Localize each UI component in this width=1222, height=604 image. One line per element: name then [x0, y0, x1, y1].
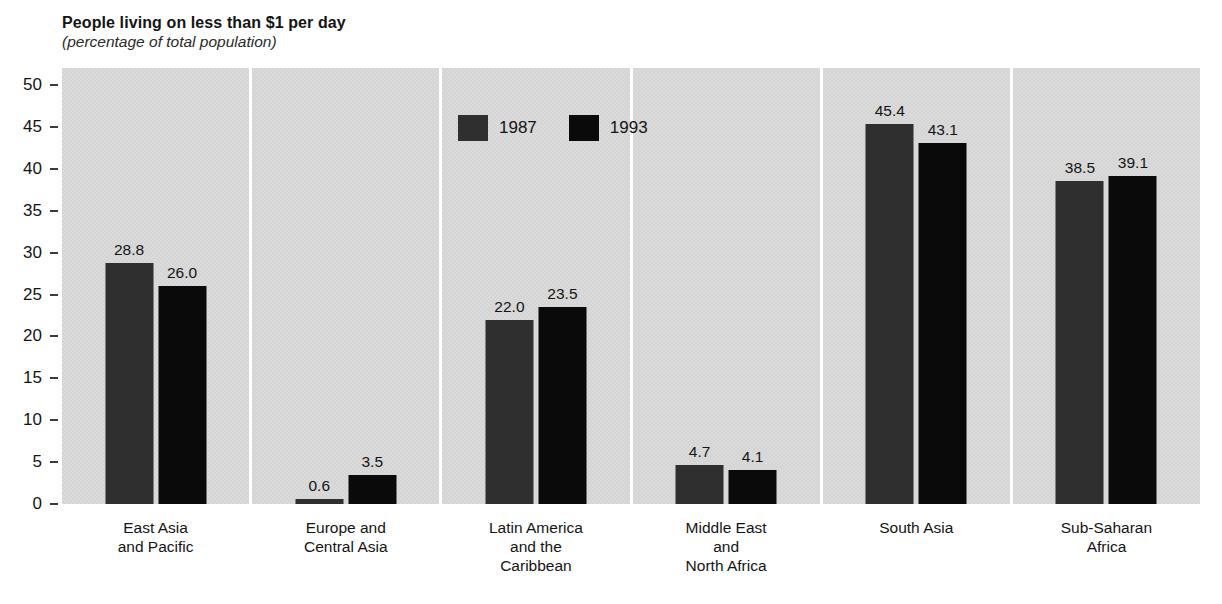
bar-value-label: 28.8: [114, 241, 144, 259]
region-panel: 28.826.0: [62, 68, 249, 504]
bar-with-label: 43.1: [919, 121, 967, 504]
y-tick-mark: [50, 168, 58, 170]
bar-1987: [105, 263, 153, 504]
bar-1993: [348, 475, 396, 504]
bar-with-label: 26.0: [158, 264, 206, 504]
legend: 19871993: [458, 115, 648, 141]
bar-value-label: 26.0: [167, 264, 197, 282]
bar-value-label: 38.5: [1065, 159, 1095, 177]
bar-value-label: 22.0: [494, 298, 524, 316]
bar-with-label: 45.4: [866, 102, 914, 504]
bar-1987: [866, 124, 914, 504]
y-tick-mark: [50, 210, 58, 212]
y-tick-mark: [50, 294, 58, 296]
bar-group: 4.74.1: [676, 443, 777, 504]
legend-swatch-1993: [569, 115, 599, 141]
plot-area: 28.826.00.63.522.023.54.74.145.443.138.5…: [62, 68, 1200, 504]
bar-value-label: 4.7: [689, 443, 711, 461]
x-category-label-line: Middle East: [633, 518, 820, 537]
y-tick-mark: [50, 335, 58, 337]
x-category-label-line: East Asia: [62, 518, 249, 537]
bar-1993: [919, 143, 967, 504]
bar-1993: [729, 470, 777, 504]
y-axis: 05101520253035404550: [0, 68, 62, 504]
y-tick-mark: [50, 126, 58, 128]
region-panel: 45.443.1: [823, 68, 1010, 504]
bar-1987: [676, 465, 724, 504]
bar-1987: [1056, 181, 1104, 504]
x-category-label-line: and the: [442, 537, 629, 556]
bar-value-label: 43.1: [928, 121, 958, 139]
bar-with-label: 22.0: [485, 298, 533, 504]
bar-1993: [1109, 176, 1157, 504]
bar-with-label: 38.5: [1056, 159, 1104, 504]
y-tick-label: 35: [23, 201, 42, 221]
bar-group: 22.023.5: [485, 285, 586, 504]
bar-with-label: 4.7: [676, 443, 724, 504]
x-category-label-line: South Asia: [823, 518, 1010, 537]
bar-group: 45.443.1: [866, 102, 967, 504]
bar-1993: [538, 307, 586, 504]
x-category-label: South Asia: [823, 518, 1010, 575]
bar-with-label: 4.1: [729, 448, 777, 504]
bar-group: 38.539.1: [1056, 154, 1157, 504]
x-category-label: Sub-SaharanAfrica: [1013, 518, 1200, 575]
x-category-label-line: North Africa: [633, 556, 820, 575]
chart-title: People living on less than $1 per day: [62, 14, 346, 32]
chart-subtitle: (percentage of total population): [62, 33, 277, 51]
y-tick-label: 30: [23, 243, 42, 263]
x-category-label: Middle EastandNorth Africa: [633, 518, 820, 575]
bar-1987: [295, 499, 343, 504]
region-panel: 4.74.1: [633, 68, 820, 504]
y-tick-label: 10: [23, 410, 42, 430]
x-category-label-line: Sub-Saharan: [1013, 518, 1200, 537]
x-axis-labels: East Asiaand PacificEurope andCentral As…: [62, 518, 1200, 575]
x-category-label-line: Africa: [1013, 537, 1200, 556]
y-tick-label: 45: [23, 117, 42, 137]
y-tick-mark: [50, 377, 58, 379]
bar-value-label: 3.5: [361, 453, 383, 471]
bar-1993: [158, 286, 206, 504]
chart-page: People living on less than $1 per day (p…: [0, 0, 1222, 604]
bar-value-label: 4.1: [742, 448, 764, 466]
bar-group: 0.63.5: [295, 453, 396, 504]
legend-item: 1993: [569, 115, 648, 141]
bar-value-label: 45.4: [875, 102, 905, 120]
x-category-label: Europe andCentral Asia: [252, 518, 439, 575]
bar-value-label: 23.5: [547, 285, 577, 303]
x-category-label-line: Europe and: [252, 518, 439, 537]
y-tick-mark: [50, 419, 58, 421]
y-tick-mark: [50, 503, 58, 505]
y-tick-label: 15: [23, 368, 42, 388]
x-category-label-line: Central Asia: [252, 537, 439, 556]
bar-with-label: 39.1: [1109, 154, 1157, 504]
bar-1987: [485, 320, 533, 504]
y-tick-label: 25: [23, 285, 42, 305]
x-category-label: East Asiaand Pacific: [62, 518, 249, 575]
bar-value-label: 39.1: [1118, 154, 1148, 172]
bar-group: 28.826.0: [105, 241, 206, 504]
x-category-label-line: Caribbean: [442, 556, 629, 575]
region-panel: 0.63.5: [252, 68, 439, 504]
x-category-label-line: Latin America: [442, 518, 629, 537]
y-tick-label: 50: [23, 75, 42, 95]
y-tick-mark: [50, 84, 58, 86]
bar-with-label: 28.8: [105, 241, 153, 504]
x-category-label-line: and: [633, 537, 820, 556]
x-category-label: Latin Americaand theCaribbean: [442, 518, 629, 575]
y-tick-mark: [50, 461, 58, 463]
y-tick-label: 20: [23, 326, 42, 346]
x-category-label-line: and Pacific: [62, 537, 249, 556]
bar-with-label: 3.5: [348, 453, 396, 504]
y-tick-mark: [50, 252, 58, 254]
legend-label: 1987: [499, 118, 537, 138]
legend-item: 1987: [458, 115, 537, 141]
y-tick-label: 40: [23, 159, 42, 179]
bar-value-label: 0.6: [308, 477, 330, 495]
legend-swatch-1987: [458, 115, 488, 141]
bar-with-label: 0.6: [295, 477, 343, 504]
legend-label: 1993: [610, 118, 648, 138]
region-panel: 38.539.1: [1013, 68, 1200, 504]
y-tick-label: 5: [33, 452, 42, 472]
y-tick-label: 0: [33, 494, 42, 514]
